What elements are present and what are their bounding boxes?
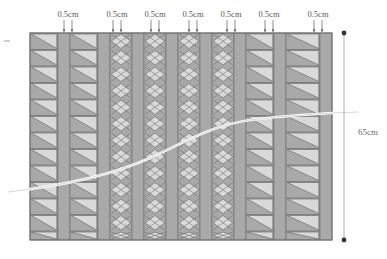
col-plain-5 [200,33,212,240]
width-label: 0.5cm [307,9,328,19]
leader-arrowhead [71,29,73,32]
col-hatch-1 [30,33,58,240]
column-group [30,33,332,240]
width-label: 0.5cm [220,9,241,19]
col-plain-3-body [132,33,144,240]
col-plain-4 [166,33,178,240]
leader-arrowhead [226,29,228,32]
leader-arrowhead [272,29,274,32]
col-plain-3 [132,33,144,240]
width-label: 0.5cm [182,9,203,19]
height-dimension: 65cm [342,31,378,243]
col-hatch-6 [212,33,234,240]
col-plain-6 [234,33,246,240]
leader-arrowhead [158,29,160,32]
leader-arrowhead [188,29,190,32]
leader-arrowhead [150,29,152,32]
col-plain-7-body [274,33,286,240]
leader-arrowhead [234,29,236,32]
col-plain-2-body [98,33,110,240]
leader-arrowhead [321,29,323,32]
col-hatch-3 [110,33,132,240]
tyre-pattern-diagram: 0.5cm0.5cm0.5cm0.5cm0.5cm0.5cm0.5cm65cm [0,0,387,259]
leader-arrowhead [112,29,114,32]
col-plain-5-body [200,33,212,240]
leader-arrowhead [196,29,198,32]
leader-arrowhead [313,29,315,32]
width-label: 0.5cm [57,9,78,19]
col-plain-4-body [166,33,178,240]
col-plain-2 [98,33,110,240]
col-hatch-7 [246,33,274,240]
diagram-canvas: 0.5cm0.5cm0.5cm0.5cm0.5cm0.5cm0.5cm65cm [0,0,387,259]
width-label-group: 0.5cm0.5cm0.5cm0.5cm0.5cm0.5cm0.5cm [57,9,328,32]
col-plain-7 [274,33,286,240]
dimension-dot-top [342,31,347,36]
leader-arrowhead [264,29,266,32]
leader-arrowhead [120,29,122,32]
width-label: 0.5cm [106,9,127,19]
leader-arrowhead [63,29,65,32]
width-label: 0.5cm [258,9,279,19]
height-label: 65cm [358,127,378,137]
width-label: 0.5cm [144,9,165,19]
col-plain-1-body [58,33,70,240]
col-hatch-4 [144,33,166,240]
col-plain-8-body [320,33,332,240]
col-plain-8 [320,33,332,240]
col-plain-1 [58,33,70,240]
dimension-dot-bottom [342,238,347,243]
col-hatch-8 [286,33,320,240]
col-hatch-2 [70,33,98,240]
col-plain-6-body [234,33,246,240]
